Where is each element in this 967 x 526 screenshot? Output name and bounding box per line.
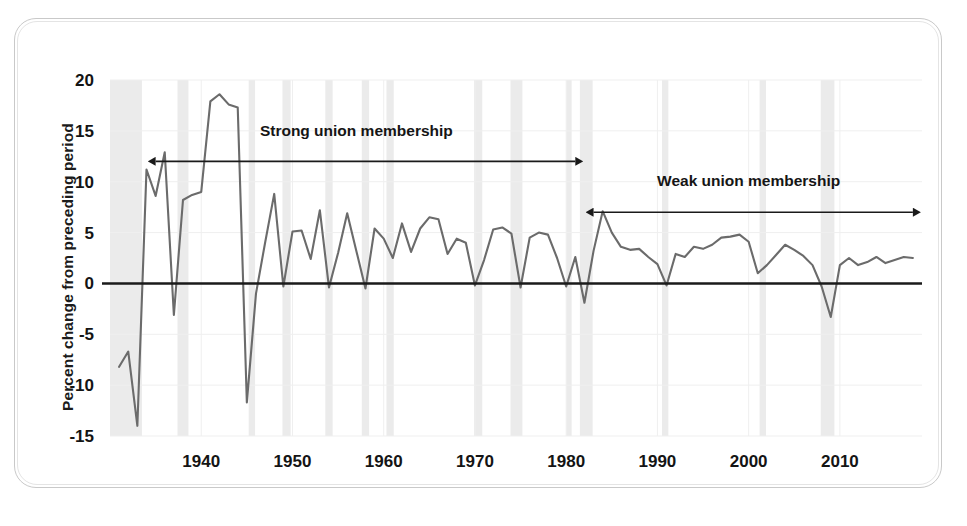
x-axis-tick-labels: 19401950196019701980199020002010 [182,452,858,471]
y-tick-label: 20 [75,71,94,90]
chart-canvas: Percent change from preceding period -15… [0,0,967,526]
x-tick-label: 1950 [274,452,312,471]
recession-band [821,80,835,436]
x-tick-label: 2000 [730,452,768,471]
y-tick-label: 10 [75,173,94,192]
annotations-group: Strong union membershipWeak union member… [156,122,913,212]
x-tick-label: 2010 [821,452,859,471]
y-axis-tick-labels: -15-10-505101520 [69,71,94,446]
x-tick-label: 1980 [547,452,585,471]
y-tick-label: 5 [85,224,94,243]
line-chart-svg: -15-10-505101520 19401950196019701980199… [0,0,967,526]
recession-shading-group [110,80,834,436]
x-tick-label: 1960 [365,452,403,471]
x-tick-label: 1940 [182,452,220,471]
recession-band [249,80,255,436]
y-tick-label: -5 [79,325,94,344]
x-tick-label: 1990 [639,452,677,471]
strong-union-annotation-label: Strong union membership [260,122,453,139]
recession-band [760,80,766,436]
y-tick-label: -10 [69,376,94,395]
x-tick-label: 1970 [456,452,494,471]
recession-band [662,80,668,436]
recession-band [580,80,593,436]
recession-band [110,80,142,436]
chart-figure: Percent change from preceding period -15… [0,0,967,526]
y-tick-label: -15 [69,427,94,446]
recession-band [566,80,571,436]
y-tick-label: 15 [75,122,94,141]
weak-union-annotation-label: Weak union membership [657,172,840,189]
y-tick-label: 0 [85,274,94,293]
